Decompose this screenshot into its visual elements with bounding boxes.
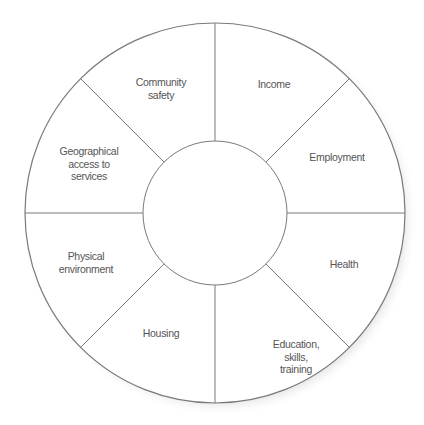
label-line: access to xyxy=(60,158,119,171)
label-line: Geographical xyxy=(60,145,119,158)
label-line: Employment xyxy=(309,151,364,164)
label-line: Income xyxy=(258,78,291,91)
label-line: Physical xyxy=(59,250,113,263)
segment-label-health: Health xyxy=(330,258,359,271)
label-line: services xyxy=(60,170,119,183)
segment-label-housing: Housing xyxy=(143,327,179,340)
segment-label-geographical-access: Geographicalaccess toservices xyxy=(60,145,119,183)
label-line: safety xyxy=(136,88,186,101)
label-line: Housing xyxy=(143,327,179,340)
label-line: Health xyxy=(330,258,359,271)
label-line: Community xyxy=(136,76,186,89)
label-line: environment xyxy=(59,262,113,275)
label-line: Education, xyxy=(273,338,320,351)
wheel-diagram xyxy=(0,0,424,425)
inner-circle xyxy=(143,141,287,285)
segment-label-employment: Employment xyxy=(309,151,364,164)
segment-label-community-safety: Communitysafety xyxy=(136,76,186,101)
segment-label-education: Education,skills,training xyxy=(273,338,320,376)
segment-label-income: Income xyxy=(258,78,291,91)
label-line: training xyxy=(273,363,320,376)
label-line: skills, xyxy=(273,351,320,364)
segment-label-physical-environment: Physicalenvironment xyxy=(59,250,113,275)
